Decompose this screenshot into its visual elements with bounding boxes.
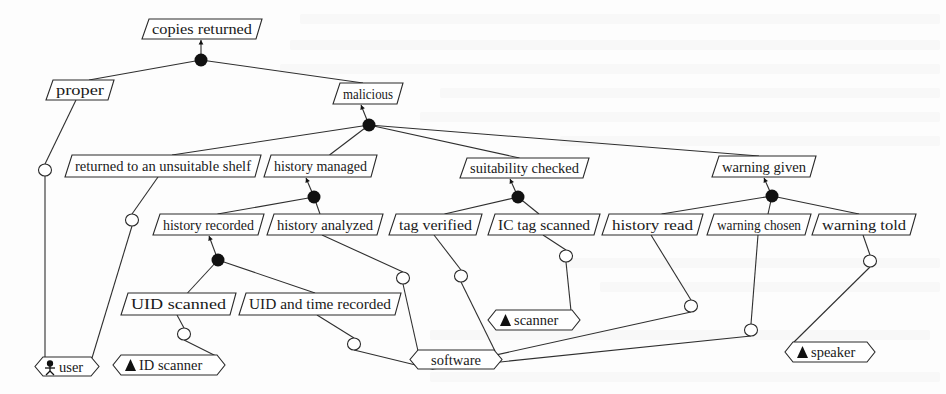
goal-label: UID scanned (131, 296, 227, 312)
refinement-edge (662, 196, 773, 214)
goal-label: warning chosen (717, 217, 802, 233)
goal-label: returned to an unsuitable shelf (75, 158, 251, 174)
goal-ic-tag-scanned: IC tag scanned (488, 214, 600, 235)
refinement-edge (772, 196, 859, 214)
goal-tag-verified: tag verified (389, 214, 482, 235)
goal-label: tag verified (399, 217, 473, 233)
responsibility-node (455, 270, 468, 282)
and-refinement-node (195, 54, 208, 67)
responsibility-node (39, 164, 52, 176)
responsibility-edge (461, 282, 495, 351)
responsibility-node (126, 214, 139, 226)
responsibility-node (560, 250, 573, 262)
goal-label: history recorded (163, 217, 255, 233)
goal-label: warning told (822, 217, 907, 233)
responsibility-node (397, 272, 410, 284)
refinement-edge (369, 125, 520, 158)
goal-suitability-checked: suitability checked (460, 158, 589, 178)
responsibility-edge (403, 284, 418, 351)
agent-label: speaker (811, 344, 855, 360)
goal-warning-told: warning told (812, 214, 916, 235)
refinement-edge (445, 197, 519, 214)
goal-label: IC tag scanned (498, 217, 591, 233)
agent-user: user (35, 357, 99, 376)
goal-label: history read (612, 217, 694, 233)
responsibility-edge (793, 267, 870, 343)
refinement-edge (218, 260, 315, 293)
agents-layer: userID scannersoftwarescannerspeaker (35, 310, 875, 376)
refinement-edge (330, 125, 370, 155)
responsibility-edge (434, 235, 461, 270)
goal-label: copies returned (152, 21, 253, 37)
goal-history-analyzed: history analyzed (267, 214, 383, 235)
responsibility-node (864, 255, 877, 267)
goal-label: malicious (343, 86, 393, 102)
goal-label: suitability checked (470, 160, 580, 176)
refinement-edge (89, 60, 201, 80)
goal-label: proper (56, 82, 104, 98)
responsibility-edge (132, 177, 158, 214)
agent-label: ID scanner (139, 357, 202, 373)
responsibility-edge (543, 235, 566, 250)
refinement-edge (218, 197, 315, 214)
goal-uid-time-recorded: UID and time recorded (239, 293, 401, 315)
responsibility-node (348, 338, 361, 350)
agent-speaker: speaker (785, 342, 875, 362)
responsibility-edge (92, 226, 132, 358)
agent-id-scanner: ID scanner (113, 355, 225, 375)
responsibility-edge (651, 235, 691, 300)
goal-warning-given: warning given (712, 156, 816, 177)
diagram-canvas: copies returnedpropermaliciousreturned t… (0, 0, 946, 394)
goals-layer: copies returnedpropermaliciousreturned t… (46, 19, 916, 315)
and-refinement-node (363, 119, 376, 132)
refinement-edge (172, 125, 369, 155)
arrowhead-icon (199, 40, 204, 44)
agent-label: software (431, 352, 481, 368)
and-refinement-node (308, 191, 321, 204)
goal-label: history managed (274, 158, 368, 174)
goal-uid-scanned: UID scanned (121, 293, 236, 315)
refinement-edge (369, 125, 759, 156)
responsibility-edge (863, 235, 870, 255)
goal-history-recorded: history recorded (153, 214, 264, 235)
responsibility-edge (566, 262, 571, 311)
responsibility-edge (177, 315, 184, 328)
responsibility-node (178, 328, 191, 340)
responsibility-edge (184, 340, 216, 356)
refinement-edge (201, 60, 363, 83)
goal-proper: proper (46, 80, 114, 100)
edges-layer (45, 40, 870, 369)
goal-label: history analyzed (277, 217, 374, 233)
and-refinement-node (512, 191, 525, 204)
goal-model-diagram: copies returnedpropermaliciousreturned t… (0, 0, 946, 394)
goal-malicious: malicious (333, 83, 403, 104)
and-refinement-node (212, 254, 225, 267)
agent-software: software (410, 350, 502, 369)
goal-warning-chosen: warning chosen (707, 214, 811, 235)
responsibility-edge (45, 100, 76, 164)
goal-history-read: history read (602, 214, 703, 235)
agent-label: user (59, 359, 83, 375)
goal-label: UID and time recorded (249, 296, 392, 312)
agent-label: scanner (514, 312, 558, 328)
responsibility-edge (751, 235, 758, 324)
agent-scanner: scanner (488, 310, 580, 330)
goal-label: warning given (722, 159, 807, 175)
responsibility-edge (317, 315, 354, 338)
goal-history-managed: history managed (264, 155, 377, 177)
responsibility-edge (322, 235, 403, 272)
responsibility-node (685, 300, 698, 312)
refinement-edge (188, 260, 219, 293)
goal-returned-unsuitable: returned to an unsuitable shelf (65, 155, 261, 177)
and-refinement-node (766, 190, 779, 203)
responsibility-node (745, 324, 758, 336)
goal-copies-returned: copies returned (142, 19, 262, 39)
